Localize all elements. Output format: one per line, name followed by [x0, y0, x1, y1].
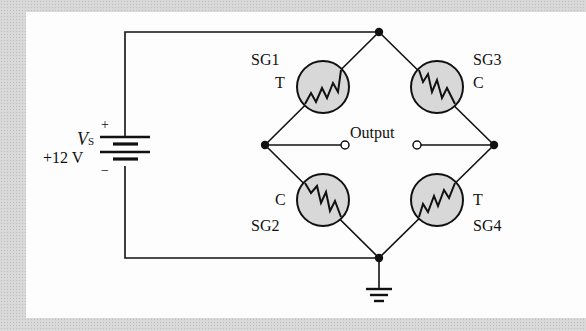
label-sg2: SG2 — [251, 218, 279, 234]
label-minus: − — [101, 164, 109, 178]
label-sg4: SG4 — [473, 218, 501, 234]
ground-icon — [366, 289, 392, 301]
label-sg3-mode: C — [473, 75, 484, 91]
label-vs: VS — [77, 130, 94, 148]
label-sg2-mode: C — [275, 192, 286, 208]
strain-gauge-sg1-icon — [297, 61, 349, 113]
label-sg3: SG3 — [473, 52, 501, 68]
label-source-voltage: +12 V — [43, 150, 83, 166]
label-sg1-mode: T — [275, 75, 285, 91]
label-sg1: SG1 — [251, 52, 279, 68]
strain-gauge-sg2-icon — [297, 174, 349, 226]
strain-gauge-sg4-icon — [411, 174, 463, 226]
battery-icon — [100, 137, 150, 159]
output-terminals — [341, 141, 421, 149]
label-output: Output — [350, 125, 394, 141]
label-sg4-mode: T — [473, 192, 483, 208]
circuit-diagram — [0, 0, 586, 331]
label-plus: + — [101, 118, 109, 132]
strain-gauge-sg3-icon — [411, 61, 463, 113]
